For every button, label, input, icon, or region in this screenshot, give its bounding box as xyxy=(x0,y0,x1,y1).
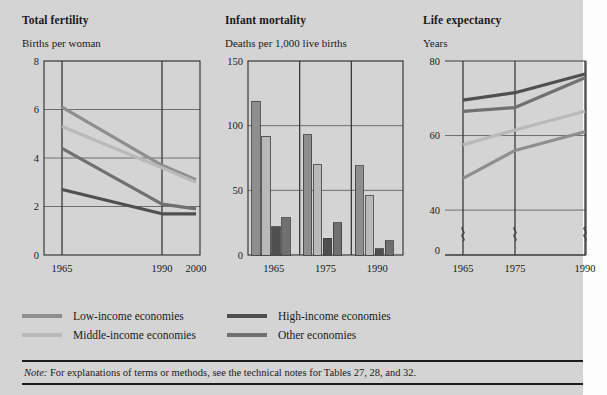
note-body: For explanations of terms or methods, se… xyxy=(50,367,416,378)
y-axis-tick: 40 xyxy=(430,205,441,216)
panel-life-expectancy: Life expectancy Years 806040019651975199… xyxy=(423,14,588,273)
series-line xyxy=(62,190,196,214)
legend-label-other: Other economies xyxy=(278,329,356,341)
bar xyxy=(385,241,393,255)
y-axis-tick: 2 xyxy=(34,201,39,212)
legend-swatch-high-income xyxy=(227,314,267,318)
legend-row: Middle-income economies Other economies xyxy=(22,325,452,344)
panel-title-total-fertility: Total fertility xyxy=(22,14,202,26)
bar xyxy=(365,196,373,256)
x-axis-tick: 1965 xyxy=(263,263,284,274)
bar-series-group xyxy=(252,101,394,255)
bar xyxy=(333,223,341,255)
legend-item-middle-income: Middle-income economies xyxy=(22,329,227,341)
figure-legend: Low-income economies High-income economi… xyxy=(22,306,452,344)
series-line xyxy=(463,111,585,145)
series-line xyxy=(463,78,585,112)
panel-ylabel-life-expectancy: Years xyxy=(423,37,588,49)
bar xyxy=(252,101,260,255)
y-axis-tick: 150 xyxy=(227,56,243,67)
x-axis-tick: 1990 xyxy=(575,263,596,274)
panel-ylabel-total-fertility: Births per woman xyxy=(22,37,202,49)
note-text: Note: For explanations of terms or metho… xyxy=(22,362,583,383)
x-axis-tick: 1990 xyxy=(367,263,388,274)
bar xyxy=(262,136,270,255)
legend-swatch-other xyxy=(227,333,267,337)
bar xyxy=(355,166,363,255)
bar xyxy=(375,249,383,256)
legend-swatch-low-income xyxy=(22,314,62,318)
y-axis-tick: 0 xyxy=(435,245,440,256)
x-axis-tick: 2000 xyxy=(186,263,207,274)
bar xyxy=(282,218,290,256)
legend-item-high-income: High-income economies xyxy=(227,310,432,322)
note-band: Note: For explanations of terms or metho… xyxy=(22,360,583,385)
note-prefix: Note: xyxy=(24,367,47,378)
x-axis-tick: 1975 xyxy=(505,263,526,274)
legend-item-other: Other economies xyxy=(227,329,432,341)
plot-canvas-fertility: 02468196519902000 xyxy=(22,53,202,273)
plot-total-fertility: 02468196519902000 xyxy=(22,53,202,273)
bar xyxy=(323,238,331,255)
y-axis-tick: 80 xyxy=(430,56,441,67)
panel-ylabel-infant-mortality: Deaths per 1,000 live births xyxy=(225,37,405,49)
note-rule-bottom xyxy=(22,383,583,385)
bar xyxy=(313,165,321,256)
legend-row: Low-income economies High-income economi… xyxy=(22,306,452,325)
legend-label-high-income: High-income economies xyxy=(278,310,391,322)
plot-frame xyxy=(248,61,403,255)
plot-canvas-mortality: 050100150196519751990 xyxy=(225,53,405,273)
bar xyxy=(303,135,311,255)
panel-title-life-expectancy: Life expectancy xyxy=(423,14,588,26)
panel-title-infant-mortality: Infant mortality xyxy=(225,14,405,26)
y-axis-tick: 100 xyxy=(227,120,243,131)
bar xyxy=(272,227,280,256)
plot-infant-mortality: 050100150196519751990 xyxy=(225,53,405,273)
y-axis-tick: 6 xyxy=(34,104,39,115)
legend-item-low-income: Low-income economies xyxy=(22,310,227,322)
plot-canvas-expectancy: 8060400196519751990 xyxy=(423,53,588,273)
x-axis-tick: 1965 xyxy=(52,263,73,274)
legend-label-low-income: Low-income economies xyxy=(73,310,184,322)
legend-swatch-middle-income xyxy=(22,333,62,337)
series-line xyxy=(62,107,196,180)
series-line xyxy=(62,126,196,182)
series-line xyxy=(62,148,196,209)
panel-total-fertility: Total fertility Births per woman 0246819… xyxy=(22,14,202,273)
y-axis-tick: 4 xyxy=(34,153,40,164)
panel-infant-mortality: Infant mortality Deaths per 1,000 live b… xyxy=(225,14,405,273)
y-axis-tick: 60 xyxy=(430,130,441,141)
figure-page: Total fertility Births per woman 0246819… xyxy=(0,0,607,395)
y-axis-tick: 0 xyxy=(238,250,243,261)
plot-life-expectancy: 8060400196519751990 xyxy=(423,53,588,273)
y-axis-tick: 50 xyxy=(233,185,244,196)
x-axis-tick: 1990 xyxy=(152,263,173,274)
legend-label-middle-income: Middle-income economies xyxy=(73,329,196,341)
x-axis-tick: 1975 xyxy=(315,263,336,274)
y-axis-tick: 0 xyxy=(34,250,39,261)
y-axis-tick: 8 xyxy=(34,56,39,67)
x-axis-tick: 1965 xyxy=(453,263,474,274)
